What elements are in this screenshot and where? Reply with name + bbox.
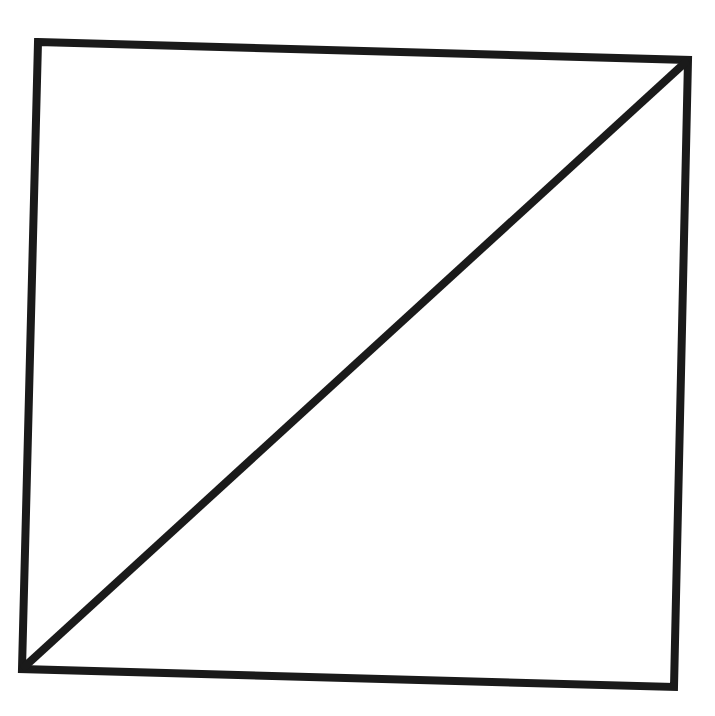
- margin-text: [1, 478, 7, 534]
- diagram-canvas: [0, 0, 715, 716]
- diagonal-line: [22, 60, 688, 669]
